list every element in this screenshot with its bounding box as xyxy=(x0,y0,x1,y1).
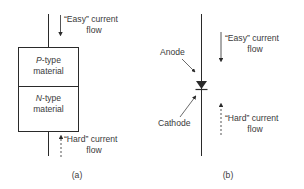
hard-flow-label-line2: flow xyxy=(247,124,263,134)
panel-a: P-type material N-type material “Easy” c… xyxy=(19,14,119,180)
easy-flow-label-line2: flow xyxy=(86,25,102,35)
cathode-pointer-arrow-icon xyxy=(180,97,195,117)
pn-junction-diode-diagram: P-type material N-type material “Easy” c… xyxy=(0,0,304,189)
p-type-label: P-type xyxy=(36,55,61,65)
hard-flow-label-line1: “Hard” current xyxy=(225,113,279,123)
easy-flow-label-line2: flow xyxy=(247,44,263,54)
easy-flow-label-line1: “Easy” current xyxy=(225,33,280,43)
panel-b-caption: (b) xyxy=(223,170,234,180)
anode-pointer-arrow-icon xyxy=(182,59,194,71)
anode-label: Anode xyxy=(160,47,185,57)
hard-flow-label-line2: flow xyxy=(86,145,102,155)
n-type-label: N-type xyxy=(36,93,62,103)
p-material-label: material xyxy=(33,66,64,76)
hard-flow-label-line1: “Hard” current xyxy=(64,134,118,144)
diode-triangle-icon xyxy=(196,81,207,89)
easy-flow-label-line1: “Easy” current xyxy=(64,14,119,24)
panel-b: Anode Cathode “Easy” current flow “Hard”… xyxy=(158,14,280,180)
panel-a-caption: (a) xyxy=(72,170,83,180)
n-material-label: material xyxy=(33,104,64,114)
cathode-label: Cathode xyxy=(158,118,191,128)
